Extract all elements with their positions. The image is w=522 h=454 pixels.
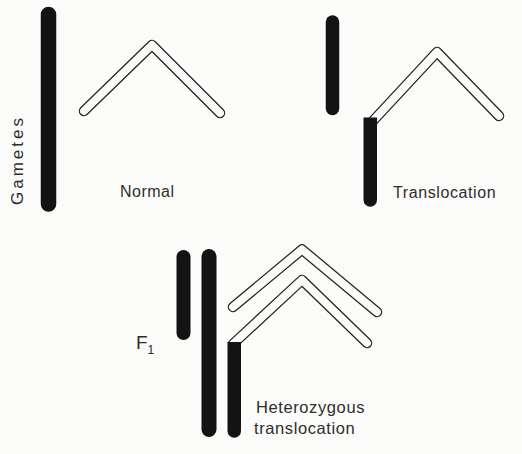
- translocation-black-arm: [364, 118, 378, 207]
- chromosome-diagram: [0, 0, 522, 454]
- f1-label: F1: [136, 332, 154, 357]
- heterozygous-caption-line1: Heterozygous: [256, 398, 365, 417]
- translocation-label: Translocation: [393, 184, 496, 202]
- normal-panel: [49, 15, 221, 205]
- figure-canvas: Gametes Normal Translocation F1 Heterozy…: [0, 0, 522, 454]
- f1-translocated-black-arm: [228, 342, 242, 438]
- translocation-chevron-arm: [371, 52, 499, 123]
- translocation-panel: [333, 22, 500, 207]
- f1-label-base: F: [136, 332, 148, 353]
- gametes-row-label: Gametes: [8, 95, 30, 225]
- normal-chevron-chromosome: [84, 45, 220, 113]
- heterozygous-caption-line2: translocation: [254, 419, 355, 438]
- normal-label: Normal: [120, 183, 175, 201]
- f1-label-subscript: 1: [148, 343, 155, 357]
